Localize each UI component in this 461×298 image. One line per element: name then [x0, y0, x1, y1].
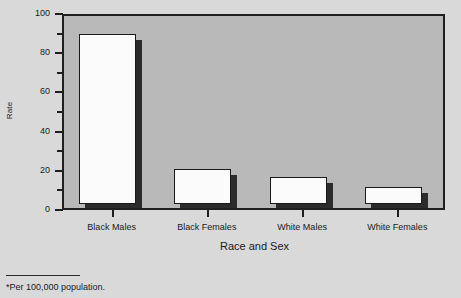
- footnote-text: *Per 100,000 population.: [6, 282, 105, 293]
- y-axis-minor-tick: [57, 72, 63, 74]
- y-axis-tick-label: 20: [40, 166, 50, 175]
- y-axis-tick-labels: 020406080100: [18, 0, 54, 220]
- y-axis-tick-label: 0: [45, 205, 50, 214]
- x-axis-tick: [112, 210, 114, 217]
- y-axis-minor-tick: [57, 111, 63, 113]
- bar-face: [174, 169, 231, 204]
- y-axis-minor-tick: [57, 189, 63, 191]
- x-axis-title: Race and Sex: [64, 240, 445, 252]
- bar: [365, 187, 428, 210]
- y-axis-tick-label: 100: [35, 9, 50, 18]
- bar: [270, 177, 333, 210]
- y-axis-major-tick: [55, 170, 63, 172]
- bars-container: [64, 16, 443, 210]
- bar-face: [365, 187, 422, 204]
- x-axis-tick: [397, 210, 399, 217]
- bar-face: [79, 34, 136, 204]
- x-axis-line: [62, 208, 445, 210]
- y-axis-tick-label: 60: [40, 87, 50, 96]
- x-axis-category-label: White Males: [277, 222, 327, 232]
- y-axis-minor-tick: [57, 33, 63, 35]
- y-axis-title-text: Rate: [6, 101, 15, 119]
- bar: [79, 34, 142, 210]
- y-axis-major-tick: [55, 91, 63, 93]
- plot-area: [64, 14, 445, 210]
- x-axis-category-label: Black Females: [177, 222, 236, 232]
- y-axis-major-tick: [55, 13, 63, 15]
- x-axis-tick: [207, 210, 209, 217]
- x-axis-category-label: White Females: [367, 222, 427, 232]
- bar-face: [270, 177, 327, 204]
- bar: [174, 169, 237, 210]
- y-axis-major-tick: [55, 52, 63, 54]
- x-axis-tick: [302, 210, 304, 217]
- y-axis-tick-label: 40: [40, 127, 50, 136]
- y-axis-tick-label: 80: [40, 48, 50, 57]
- y-axis-minor-tick: [57, 150, 63, 152]
- footnote-divider: [6, 275, 80, 276]
- bar-chart-figure: Rate 020406080100 Race and Sex *Per 100,…: [0, 0, 461, 298]
- y-axis-major-tick: [55, 209, 63, 211]
- y-axis-title: Rate: [2, 0, 18, 220]
- x-axis-category-label: Black Males: [87, 222, 136, 232]
- y-axis-major-tick: [55, 131, 63, 133]
